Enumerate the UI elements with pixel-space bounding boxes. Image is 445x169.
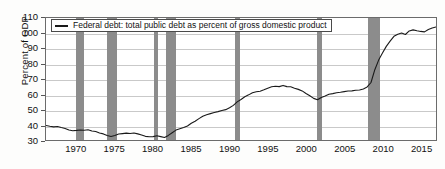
x-tick-label: 2000 <box>296 144 317 154</box>
x-tick-label: 1970 <box>65 144 86 154</box>
x-tick-label: 1975 <box>104 144 125 154</box>
x-tick-label: 1995 <box>257 144 278 154</box>
x-tick-label: 1980 <box>142 144 163 154</box>
legend-line-swatch-icon <box>55 25 68 27</box>
x-tick-label: 1985 <box>180 144 201 154</box>
chart-container: Percent of GDP 30405060708090100110 1970… <box>0 0 445 169</box>
x-tick-label: 1990 <box>219 144 240 154</box>
x-tick-label: 2010 <box>373 144 394 154</box>
chart-legend: Federal debt: total public debt as perce… <box>51 19 332 32</box>
legend-label-federal-debt: Federal debt: total public debt as perce… <box>73 21 327 30</box>
x-tick-label: 2005 <box>334 144 355 154</box>
x-tick-label: 2015 <box>411 144 432 154</box>
